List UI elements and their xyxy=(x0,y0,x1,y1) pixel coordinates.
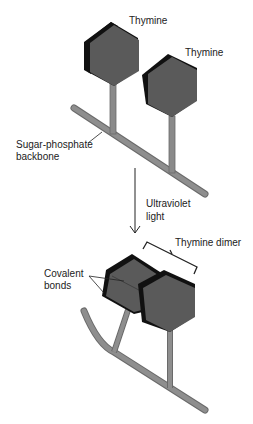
thymine-hexagon-2 xyxy=(142,54,197,117)
bottom-backbone xyxy=(84,311,205,410)
label-covalent-line1: Covalent xyxy=(44,268,83,279)
thymine-hexagon-1 xyxy=(84,22,139,86)
label-backbone-line2: backbone xyxy=(16,151,59,162)
uv-arrow xyxy=(130,168,140,233)
label-backbone-line1: Sugar-phosphate xyxy=(16,139,93,150)
label-thymine-2: Thymine xyxy=(185,47,223,58)
label-thymine-dimer: Thymine dimer xyxy=(175,237,241,248)
label-uv-line2: light xyxy=(146,211,164,222)
diagram-canvas xyxy=(0,0,253,424)
label-uv-line1: Ultraviolet xyxy=(146,198,190,209)
label-covalent-line2: bonds xyxy=(44,280,71,291)
top-backbone xyxy=(74,108,205,194)
label-thymine-1: Thymine xyxy=(129,15,167,26)
